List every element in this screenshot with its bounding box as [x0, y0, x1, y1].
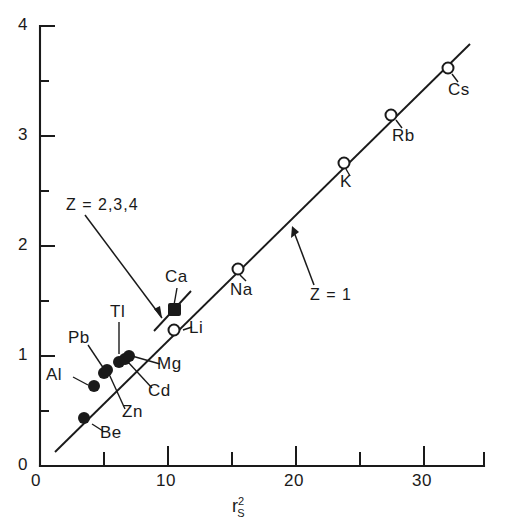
y-axis-ticks	[40, 26, 55, 411]
scatter-chart-figure: 4 3 2 1 0 0 10 20 30 r2S Z = 2,3,4 Z = 1…	[0, 0, 511, 530]
data-point-mg	[123, 350, 135, 362]
point-label-al: Al	[46, 365, 62, 385]
y-tick-label-3: 3	[18, 125, 28, 145]
point-label-mg: Mg	[157, 354, 182, 374]
data-point-cs	[443, 63, 454, 74]
point-label-rb: Rb	[392, 126, 415, 146]
data-point-be	[78, 412, 90, 424]
point-label-k: K	[340, 172, 352, 192]
point-label-li: Li	[189, 318, 203, 338]
y-tick-label-2: 2	[18, 235, 28, 255]
y-tick-label-4: 4	[18, 15, 28, 35]
point-label-cs: Cs	[448, 80, 470, 100]
point-label-zn: Zn	[122, 402, 143, 422]
x-tick-label-20: 20	[284, 471, 304, 491]
annotation-z-multivalent: Z = 2,3,4	[66, 196, 139, 214]
point-label-cd: Cd	[148, 381, 171, 401]
data-point-k	[339, 158, 350, 169]
x-tick-label-10: 10	[156, 471, 176, 491]
data-point-al	[88, 380, 100, 392]
plot-canvas	[0, 0, 511, 530]
point-label-tl: Tl	[110, 302, 125, 322]
leader-ca	[174, 288, 177, 305]
data-point-li	[169, 325, 180, 336]
x-tick-label-30: 30	[412, 471, 432, 491]
data-point-na	[233, 264, 244, 275]
leader-al	[73, 377, 88, 385]
y-tick-label-0: 0	[18, 455, 28, 475]
x-axis-title-subscript: S	[237, 507, 244, 519]
y-tick-label-1: 1	[18, 345, 28, 365]
x-tick-label-0: 0	[31, 471, 41, 491]
point-label-be: Be	[100, 423, 122, 443]
x-axis-ticks	[104, 446, 484, 466]
x-axis-title-superscript: 2	[238, 495, 244, 507]
point-label-ca: Ca	[165, 267, 188, 287]
annotation-z-monovalent: Z = 1	[310, 286, 352, 304]
leader-pb	[88, 345, 104, 369]
x-axis-title: r2S	[232, 495, 244, 519]
leader-z1	[294, 232, 314, 285]
point-label-pb: Pb	[68, 328, 90, 348]
data-point-zn	[101, 364, 113, 376]
data-point-rb	[386, 110, 397, 121]
data-point-ca	[168, 303, 181, 316]
point-label-na: Na	[230, 280, 253, 300]
